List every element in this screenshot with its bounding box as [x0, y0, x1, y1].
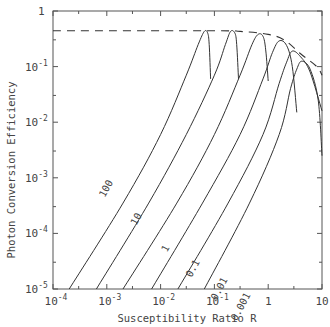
y-tick-label: 10-5 [25, 281, 48, 296]
x-tick-label: 10 [315, 295, 328, 308]
curve-100 [69, 31, 210, 289]
y-tick-label: 10-1 [25, 59, 48, 74]
envelope-dashed-line [53, 31, 322, 75]
curve-1 [123, 34, 268, 289]
curve-0p001 [204, 61, 322, 289]
curve-label: 10 [128, 211, 143, 227]
plot-frame [53, 11, 322, 289]
x-tick-label: 10-3 [98, 293, 121, 308]
x-axis-title: Susceptibility Ratio R [117, 312, 257, 324]
curve-label: 0.1 [184, 258, 202, 279]
photon-conversion-efficiency-chart: 10-410-310-210-1110 110-110-210-310-410-… [0, 0, 330, 327]
y-tick-label: 10-3 [25, 170, 48, 185]
max-efficiency-envelope [53, 31, 322, 75]
y-tick-label: 10-4 [25, 225, 48, 240]
efficiency-curves [69, 31, 322, 289]
x-tick-label: 10-2 [152, 293, 175, 308]
curve-label: 1 [159, 243, 172, 253]
y-tick-label: 10-2 [25, 114, 48, 129]
x-axis-ticks: 10-410-310-210-1110 [45, 11, 329, 308]
x-tick-label: 1 [265, 295, 272, 308]
curve-label: 100 [97, 178, 115, 199]
y-axis-title: Photon Conversion Efficiency [5, 81, 17, 258]
x-tick-label: 10-4 [45, 293, 68, 308]
plot-border [53, 11, 322, 289]
y-tick-label: 1 [38, 5, 45, 18]
curve-0p01 [178, 51, 322, 289]
